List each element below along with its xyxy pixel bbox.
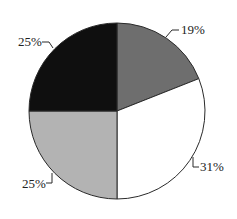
slice-label-25-bottom: 25% [22, 176, 46, 191]
leader-line-31 [193, 157, 199, 167]
pie-chart: 19% 31% 25% 25% [0, 0, 237, 219]
slice-label-25-top: 25% [18, 34, 42, 49]
slice-label-31: 31% [200, 159, 224, 174]
pie-slices [29, 23, 205, 199]
slice-label-19: 19% [181, 22, 205, 37]
leader-line-19 [166, 30, 179, 37]
pie-slice-3 [29, 23, 117, 111]
leader-line-25-bottom [46, 173, 52, 183]
leader-line-25-top [42, 42, 53, 48]
